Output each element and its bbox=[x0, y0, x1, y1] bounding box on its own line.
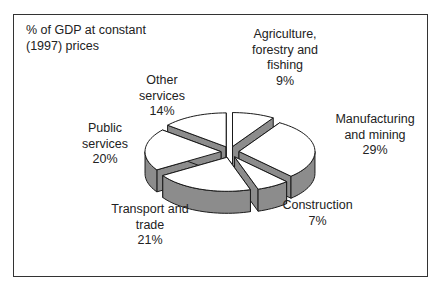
label-public: Public services 20% bbox=[70, 121, 140, 168]
label-construction: Construction 7% bbox=[270, 198, 365, 229]
label-agriculture: Agriculture, forestry and fishing 9% bbox=[240, 27, 330, 89]
label-transport: Transport and trade 21% bbox=[100, 202, 200, 249]
label-other: Other services 14% bbox=[127, 73, 197, 120]
label-manufacturing: Manufacturing and mining 29% bbox=[325, 112, 425, 159]
